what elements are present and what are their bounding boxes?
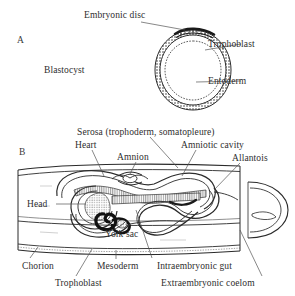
label-extraembryonic-coelom: Extraembryonic coelom <box>161 279 255 289</box>
label-head: Head <box>27 200 47 210</box>
label-amnion: Amnion <box>117 153 149 163</box>
label-chorion: Chorion <box>22 262 54 272</box>
label-mesoderm: Mesoderm <box>97 262 138 272</box>
leader-serosa <box>150 137 178 168</box>
label-blastocyst: Blastocyst <box>44 66 85 76</box>
label-trophoblast-a: Trophoblast <box>208 40 255 50</box>
right-sac-cap-outer <box>248 182 288 238</box>
panel-a-blastocyst-drawing <box>141 22 241 110</box>
leader-embryonic-disc <box>141 22 185 30</box>
right-sac-cap-inner <box>250 188 281 232</box>
figure-canvas: Embryonic disc A Trophoblast Blastocyst … <box>0 0 295 296</box>
panel-letter-b: B <box>19 148 25 158</box>
entoderm-outline-shape <box>165 41 221 100</box>
label-heart: Heart <box>75 141 97 151</box>
right-sac-cap-lumen <box>252 212 276 220</box>
label-amniotic-cavity: Amniotic cavity <box>181 141 244 151</box>
label-yolk-sac: Yolk sac <box>105 230 138 240</box>
label-serosa: Serosa (trophoderm, somatopleure) <box>77 128 215 138</box>
label-trophoblast-b: Trophoblast <box>55 279 102 289</box>
label-entoderm: Entoderm <box>208 77 246 87</box>
label-embryonic-disc: Embryonic disc <box>84 11 145 21</box>
label-intraembryonic-gut: Intraembryonic gut <box>157 262 232 272</box>
label-allantois: Allantois <box>232 154 268 164</box>
panel-letter-a: A <box>17 36 24 46</box>
